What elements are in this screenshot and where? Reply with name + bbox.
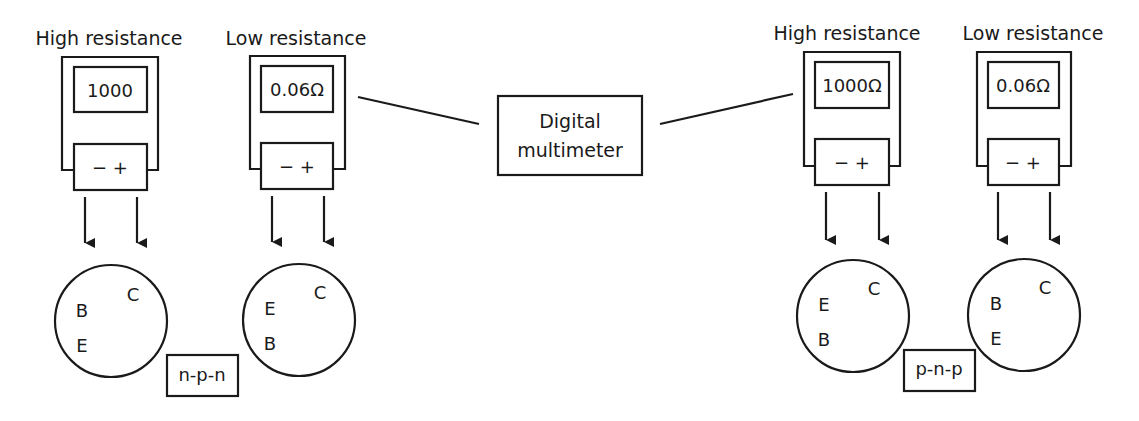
pnp-type-box: p-n-p xyxy=(904,350,975,391)
meter-reading: 0.06Ω xyxy=(270,79,324,100)
callout-frame xyxy=(498,96,642,175)
pin-label: B xyxy=(76,300,88,321)
terminal-polarity: − + xyxy=(92,157,128,178)
npn-type-box: n-p-n xyxy=(167,355,238,396)
transistor-test-diagram: High resistance 1000 − + B E C Low resis… xyxy=(0,0,1139,421)
meter-reading: 0.06Ω xyxy=(996,75,1050,96)
pin-label: B xyxy=(264,333,276,354)
pin-label: C xyxy=(868,278,881,299)
pin-label: C xyxy=(314,282,327,303)
pin-label: E xyxy=(990,328,1001,349)
transistor-outline xyxy=(968,259,1080,371)
pin-label: B xyxy=(818,329,830,350)
meter-label: High resistance xyxy=(35,27,182,49)
meter-label: Low resistance xyxy=(226,27,367,49)
pin-label: E xyxy=(76,335,87,356)
digital-multimeter-callout: Digital multimeter xyxy=(358,94,793,175)
leader-line xyxy=(660,94,793,124)
meter-npn-high: High resistance 1000 − + B E C xyxy=(35,27,182,377)
transistor-outline xyxy=(243,264,355,376)
pin-label: C xyxy=(127,284,140,305)
type-label: n-p-n xyxy=(178,364,225,385)
callout-line-1: Digital xyxy=(539,110,601,132)
pin-label: C xyxy=(1039,277,1052,298)
terminal-polarity: − + xyxy=(279,156,315,177)
pin-label: E xyxy=(818,294,829,315)
leader-line xyxy=(358,97,479,124)
pin-label: E xyxy=(264,298,275,319)
meter-reading: 1000 xyxy=(87,80,133,101)
transistor-outline xyxy=(55,265,167,377)
meter-label: High resistance xyxy=(773,22,920,44)
meter-reading: 1000Ω xyxy=(822,75,882,96)
meter-npn-low: Low resistance 0.06Ω − + E B C xyxy=(226,27,367,376)
terminal-polarity: − + xyxy=(1005,152,1041,173)
pin-label: B xyxy=(990,293,1002,314)
terminal-polarity: − + xyxy=(834,152,870,173)
meter-pnp-low: Low resistance 0.06Ω − + B E C xyxy=(963,22,1104,371)
callout-line-2: multimeter xyxy=(517,139,623,161)
meter-label: Low resistance xyxy=(963,22,1104,44)
meter-pnp-high: High resistance 1000Ω − + E B C xyxy=(773,22,920,372)
type-label: p-n-p xyxy=(915,358,962,379)
transistor-outline xyxy=(797,260,909,372)
